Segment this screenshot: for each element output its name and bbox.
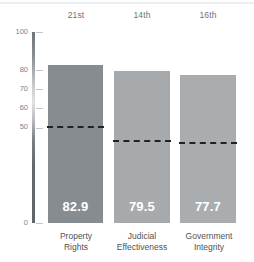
y-tick-label-80: 80 [0,66,28,74]
category-label-property-rights: Property Rights [44,231,108,252]
y-tick-label-60: 60 [0,104,28,112]
y-tick-100 [36,32,43,33]
y-tick-label-50: 50 [0,123,28,131]
bar-property-rights[interactable]: 82.9 [48,65,103,223]
bar-value-government-integrity: 77.7 [180,199,236,214]
category-label-line2: Integrity [194,242,224,252]
rule-of-law-bar-chart: 21st 14th 16th 100 80 70 60 50 0 82.9 79… [0,0,254,262]
category-label-line1: Government [186,231,233,241]
bar-value-property-rights: 82.9 [48,199,103,214]
bar-value-judicial-effectiveness: 79.5 [114,199,170,214]
y-tick-label-0: 0 [0,219,28,227]
y-axis [32,32,35,223]
category-label-line2: Rights [64,242,88,252]
reference-line-judicial-effectiveness [113,140,171,142]
bar-judicial-effectiveness[interactable]: 79.5 [114,71,170,223]
category-label-line1: Judicial [128,231,156,241]
category-label-line2: Effectiveness [117,242,167,252]
category-label-line1: Property [60,231,92,241]
plot-area: 100 80 70 60 50 0 82.9 79.5 77.7 Propert… [0,0,254,262]
category-label-government-integrity: Government Integrity [173,231,245,252]
y-tick-0 [36,223,43,224]
reference-line-government-integrity [179,142,237,144]
y-tick-80 [36,70,43,71]
y-tick-70 [36,89,43,90]
category-label-judicial-effectiveness: Judicial Effectiveness [109,231,175,252]
y-tick-50 [36,128,43,129]
y-tick-60 [36,108,43,109]
y-tick-label-100: 100 [0,28,28,36]
bar-government-integrity[interactable]: 77.7 [180,75,236,223]
y-tick-label-70: 70 [0,85,28,93]
reference-line-property-rights [47,126,104,128]
